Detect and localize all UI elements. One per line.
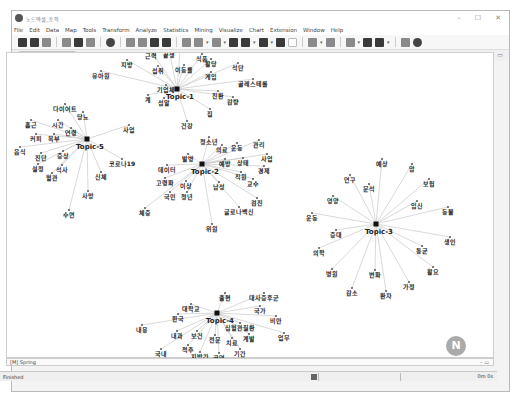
menu-help[interactable]: Help (331, 27, 344, 33)
topic-node[interactable] (215, 311, 220, 316)
view-controls-icon[interactable]: – ▭ (480, 359, 493, 365)
status-bar: Finished 0m 0s (0, 371, 497, 381)
chevron-down-icon[interactable]: ▾ (358, 39, 361, 45)
node-label: 계발 (243, 335, 255, 343)
background-icon[interactable] (288, 38, 297, 47)
cluster-icon[interactable] (346, 38, 355, 47)
node-label: 복부 (48, 135, 60, 143)
node-label: 국내 (155, 350, 167, 358)
copy-icon[interactable] (86, 38, 95, 47)
menu-chart[interactable]: Chart (249, 27, 264, 33)
bottom-tab-label: [M] Spring (10, 359, 36, 365)
menu-transform[interactable]: Transform (102, 27, 129, 33)
open-icon[interactable] (18, 38, 27, 47)
matrix-icon[interactable] (363, 38, 372, 47)
chevron-down-icon[interactable]: ▾ (206, 39, 209, 45)
node-label: 골레스테롤 (238, 80, 268, 88)
select-box-icon[interactable] (138, 38, 147, 47)
menu-map[interactable]: Map (65, 27, 77, 33)
chevron-down-icon[interactable]: ▾ (271, 39, 274, 45)
menu-bar: File Edit Data Map Tools Transform Analy… (12, 25, 509, 35)
menu-tools[interactable]: Tools (83, 27, 97, 33)
node-label: 의학 (313, 249, 325, 257)
network-graph[interactable]: 세종시근력끝생식품활당석단지방섭취이동률게임유아원골레스테롤기업체계섬알친환감량… (7, 53, 495, 359)
expand-icon[interactable] (162, 38, 171, 47)
maximize-button[interactable]: ☐ (475, 14, 481, 22)
node-label: 환자 (380, 292, 392, 300)
properties-icon[interactable] (401, 38, 410, 47)
node-label: 코로나19 (109, 160, 135, 168)
menu-statistics[interactable]: Statistics (163, 27, 188, 33)
undo-icon[interactable] (62, 38, 71, 47)
node-label: 진단 (35, 154, 47, 162)
help-icon[interactable] (413, 38, 422, 47)
node-label: 보험 (423, 180, 435, 188)
topic-node[interactable] (374, 222, 379, 227)
topic-label: Topic-3 (365, 228, 393, 236)
node-label: 비만 (270, 317, 282, 325)
node-label: 출현 (219, 294, 231, 302)
node-label: 예방 (219, 160, 231, 168)
node-label: 전문 (209, 336, 221, 344)
topic-node[interactable] (200, 162, 205, 167)
topic-label: Topic-1 (166, 93, 194, 101)
minimize-button[interactable]: – (457, 14, 461, 22)
arrow-style-icon[interactable] (276, 38, 285, 47)
image-icon[interactable] (375, 38, 384, 47)
menu-edit[interactable]: Edit (29, 27, 40, 33)
menu-window[interactable]: Window (303, 27, 325, 33)
record-icon[interactable] (106, 38, 115, 47)
view-minimize-icon[interactable]: ▭ (497, 51, 503, 58)
line-color-icon[interactable] (229, 38, 238, 47)
close-button[interactable]: ✕ (495, 14, 501, 22)
node-label: 흡근 (25, 121, 37, 129)
line-width-icon[interactable] (241, 38, 250, 47)
bottom-view-tab[interactable]: [M] Spring – ▭ (6, 358, 494, 366)
menu-analyze[interactable]: Analyze (136, 27, 158, 33)
layout-icon[interactable] (74, 38, 83, 47)
print-icon[interactable] (42, 38, 51, 47)
stop-icon[interactable] (311, 374, 317, 380)
node-label: 활요 (427, 268, 439, 276)
save-icon[interactable] (30, 38, 39, 47)
node-label: 발병 (182, 155, 194, 163)
sort-icon[interactable] (308, 38, 317, 47)
node-label: 동물 (442, 208, 454, 216)
node-label: 사망 (82, 192, 94, 200)
chevron-down-icon[interactable]: ▾ (253, 39, 256, 45)
node-label: 고령화 (156, 179, 174, 187)
shape-icon[interactable] (182, 38, 191, 47)
node-label: 감소 (346, 289, 358, 297)
node-label: 시간 (52, 121, 64, 129)
menu-file[interactable]: File (14, 27, 23, 33)
topic-node[interactable] (175, 87, 180, 92)
menu-visualize[interactable]: Visualize (219, 27, 243, 33)
graph-canvas[interactable]: 세종시근력끝생식품활당석단지방섭취이동률게임유아원골레스테롤기업체계섬알친환감량… (6, 52, 494, 358)
node-label: 한국 (172, 315, 184, 323)
arrow-icon[interactable] (259, 38, 268, 47)
node-label: 내과 (171, 332, 183, 340)
node-label: 직원 (235, 173, 247, 181)
node-label: 증대 (330, 231, 342, 239)
topic-node[interactable] (85, 137, 90, 142)
menu-mining[interactable]: Mining (194, 27, 212, 33)
app-icon (15, 14, 23, 22)
node-add-icon[interactable] (126, 38, 135, 47)
node-label: 친환 (212, 92, 224, 100)
chevron-down-icon[interactable]: ▾ (387, 39, 390, 45)
menu-data[interactable]: Data (46, 27, 59, 33)
graph-edge (312, 213, 376, 224)
chevron-down-icon[interactable]: ▾ (320, 39, 323, 45)
node-shape-icon[interactable] (194, 38, 203, 47)
node-label: 지방 (121, 61, 133, 69)
menu-extension[interactable]: Extension (270, 27, 297, 33)
node-label: 석단 (232, 64, 244, 72)
chevron-down-icon[interactable]: ▾ (224, 39, 227, 45)
node-label: 다이어트 (53, 105, 77, 113)
filter-icon[interactable] (326, 38, 335, 47)
node-label: 경제 (258, 167, 270, 175)
node-label: 글로나백신 (224, 208, 254, 216)
cross-icon[interactable] (150, 38, 159, 47)
edge-style-icon[interactable] (212, 38, 221, 47)
node-label: 국가 (254, 307, 266, 315)
